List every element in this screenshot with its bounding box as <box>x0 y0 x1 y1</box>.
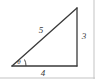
triangle-svg <box>0 0 95 79</box>
theta-angle-label: θ <box>17 59 20 66</box>
hypotenuse-label: 5 <box>39 26 44 35</box>
angle-arc <box>25 60 27 67</box>
triangle-outline <box>12 8 77 66</box>
triangle-diagram-figure: 5 3 4 θ <box>0 0 95 79</box>
hypotenuse-side-line <box>12 8 77 66</box>
opposite-side-label: 3 <box>82 32 87 41</box>
adjacent-side-label: 4 <box>41 69 46 78</box>
